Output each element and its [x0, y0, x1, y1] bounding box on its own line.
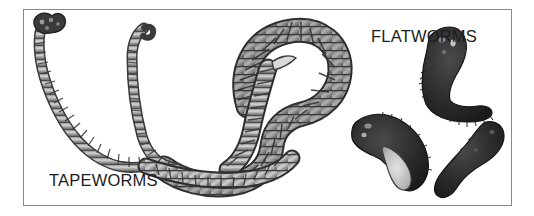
- caption-flatworms: FLATWORMS: [371, 28, 477, 45]
- tapeworm-scolex-head: [34, 13, 66, 33]
- illustration-plate: TAPEWORMS FLATWORMS: [0, 0, 534, 216]
- flatworm-middle: [352, 112, 432, 191]
- tapeworm-thin-middle: [127, 27, 176, 168]
- flatworm-lower: [435, 122, 504, 198]
- tapeworm-group: [34, 13, 340, 189]
- caption-tapeworms: TAPEWORMS: [49, 172, 158, 189]
- flatworm-group: [352, 27, 504, 198]
